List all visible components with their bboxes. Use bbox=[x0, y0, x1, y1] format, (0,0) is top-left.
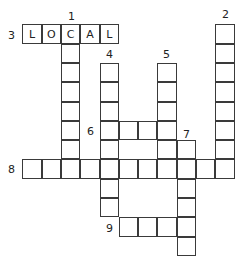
crossword-cell[interactable] bbox=[42, 159, 61, 178]
crossword-cell[interactable] bbox=[177, 198, 196, 217]
crossword-cell[interactable] bbox=[138, 121, 157, 140]
crossword-cell[interactable]: C bbox=[61, 24, 80, 43]
crossword-cell[interactable] bbox=[100, 82, 119, 101]
crossword-cell[interactable] bbox=[138, 159, 157, 178]
crossword-cell[interactable] bbox=[80, 159, 99, 178]
crossword-cell[interactable] bbox=[100, 63, 119, 82]
crossword-cell[interactable] bbox=[100, 179, 119, 198]
crossword-cell[interactable] bbox=[215, 159, 234, 178]
crossword-cell[interactable] bbox=[119, 217, 138, 236]
crossword-cell[interactable] bbox=[215, 44, 234, 63]
crossword-cell[interactable] bbox=[61, 102, 80, 121]
crossword-cell[interactable] bbox=[215, 82, 234, 101]
clue-number-4: 4 bbox=[106, 49, 113, 60]
crossword-cell[interactable] bbox=[119, 159, 138, 178]
crossword-cell[interactable] bbox=[61, 44, 80, 63]
crossword-cell[interactable] bbox=[100, 198, 119, 217]
crossword-cell[interactable] bbox=[215, 102, 234, 121]
crossword-cell[interactable] bbox=[61, 121, 80, 140]
clue-number-9: 9 bbox=[106, 223, 113, 234]
crossword-cell[interactable] bbox=[61, 159, 80, 178]
crossword-cell[interactable] bbox=[100, 140, 119, 159]
crossword-cell[interactable] bbox=[196, 159, 215, 178]
crossword-cell[interactable] bbox=[61, 140, 80, 159]
crossword-cell[interactable] bbox=[138, 217, 157, 236]
crossword-cell[interactable]: A bbox=[80, 24, 99, 43]
crossword-cell[interactable]: L bbox=[22, 24, 41, 43]
clue-number-3: 3 bbox=[8, 30, 15, 41]
crossword-cell[interactable] bbox=[215, 63, 234, 82]
clue-number-7: 7 bbox=[183, 129, 190, 140]
crossword-cell[interactable] bbox=[157, 140, 176, 159]
crossword-cell[interactable] bbox=[157, 63, 176, 82]
clue-number-2: 2 bbox=[222, 9, 229, 20]
crossword-cell[interactable] bbox=[157, 159, 176, 178]
crossword-cell[interactable] bbox=[61, 82, 80, 101]
crossword-cell[interactable] bbox=[22, 159, 41, 178]
clue-number-1: 1 bbox=[68, 11, 75, 22]
crossword-cell[interactable] bbox=[177, 179, 196, 198]
clue-number-6: 6 bbox=[87, 126, 94, 137]
crossword-cell[interactable] bbox=[215, 121, 234, 140]
crossword-cell[interactable] bbox=[177, 159, 196, 178]
crossword-cell[interactable] bbox=[157, 121, 176, 140]
crossword-cell[interactable] bbox=[215, 140, 234, 159]
crossword-cell[interactable] bbox=[100, 159, 119, 178]
crossword-cell[interactable] bbox=[177, 237, 196, 256]
crossword-cell[interactable] bbox=[215, 24, 234, 43]
clue-number-8: 8 bbox=[8, 164, 15, 175]
clue-number-5: 5 bbox=[163, 49, 170, 60]
crossword-cell[interactable] bbox=[157, 82, 176, 101]
crossword-cell[interactable] bbox=[177, 140, 196, 159]
crossword-cell[interactable] bbox=[157, 102, 176, 121]
crossword-cell[interactable]: L bbox=[100, 24, 119, 43]
crossword-cell[interactable]: O bbox=[42, 24, 61, 43]
crossword-cell[interactable] bbox=[61, 63, 80, 82]
crossword-cell[interactable] bbox=[119, 121, 138, 140]
crossword-cell[interactable] bbox=[100, 121, 119, 140]
crossword-cell[interactable] bbox=[157, 217, 176, 236]
crossword-cell[interactable] bbox=[100, 102, 119, 121]
crossword-grid: LOCAL312456789 bbox=[0, 0, 240, 264]
crossword-cell[interactable] bbox=[177, 217, 196, 236]
